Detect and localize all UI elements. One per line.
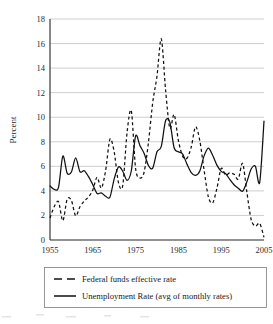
percent-time-series-chart: 024681012141618 195519651975198519952005… [0,0,273,324]
x-tick-label-1965: 1965 [84,245,101,255]
y-tick-label-10: 10 [37,112,46,122]
plot-gridlines [50,19,264,215]
x-tick-label-1975: 1975 [127,245,144,255]
legend: Federal funds effective rate Unemploymen… [45,268,267,308]
y-tick-label-6: 6 [41,161,45,171]
scan-artifacts [2,314,149,318]
plot-axes [50,19,264,240]
legend-label-federal-funds: Federal funds effective rate [82,274,176,284]
chart-figure: 024681012141618 195519651975198519952005… [0,0,273,324]
series-unemployment-rate [50,119,264,199]
y-tick-label-12: 12 [37,88,46,98]
data-series-group [50,39,264,238]
x-tick-label-2005: 2005 [256,245,273,255]
x-axis-tick-labels: 195519651975198519952005 [42,245,273,255]
y-tick-label-16: 16 [37,39,46,49]
y-tick-label-0: 0 [41,235,45,245]
y-tick-label-2: 2 [41,210,45,220]
y-tick-label-4: 4 [41,186,46,196]
y-tick-label-8: 8 [41,137,45,147]
x-tick-label-1995: 1995 [213,245,230,255]
y-tick-label-18: 18 [37,14,46,24]
y-tick-label-14: 14 [37,63,46,73]
x-tick-label-1985: 1985 [170,245,187,255]
legend-label-unemployment-rate: Unemployment Rate (avg of monthly rates) [82,291,232,301]
y-axis-title: Percent [8,116,18,143]
y-axis-tick-labels: 024681012141618 [37,14,46,245]
x-tick-label-1955: 1955 [42,245,59,255]
series-federal-funds-effective-rate [50,39,264,238]
